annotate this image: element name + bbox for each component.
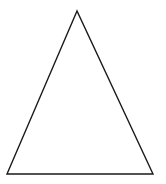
triangle-shape xyxy=(7,11,153,174)
diagram-canvas xyxy=(0,0,166,184)
